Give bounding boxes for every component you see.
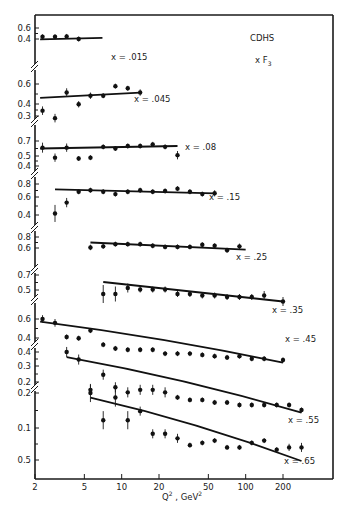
data-point [64,90,68,94]
y-tick-label: 0.4 [17,161,31,171]
data-point [250,295,254,299]
data-point [175,245,179,249]
y-tick-label: 0.4 [17,99,31,109]
data-point [200,353,204,357]
y-tick-label: 0.5 [17,455,31,465]
data-point [200,192,204,196]
data-point [237,244,241,248]
data-point [101,418,105,422]
x-axis-title-unit-sup: 2 [198,490,202,497]
y-tick-label: 0.7 [17,270,31,280]
data-point [88,391,92,395]
data-point [126,390,130,394]
panel-25: 0.80.6x = .25 [17,232,267,262]
structure-function-subscript: 3 [268,60,272,67]
x-axis-title: Q2 , GeV2 [162,490,202,502]
data-point [138,144,142,148]
data-point [101,190,105,194]
data-point [175,436,179,440]
data-point [76,156,80,160]
fit-curve [90,398,301,461]
data-point [138,242,142,246]
data-point [151,348,155,352]
data-point [163,351,167,355]
x-tick-label: 50 [203,482,214,492]
data-point [287,403,291,407]
data-point [200,293,204,297]
panel-label: x = .65 [284,456,315,466]
data-point [76,190,80,194]
panel-label: x = .45 [285,334,316,344]
data-point [281,299,285,303]
xf3-chart: 0.60.4x = .0150.60.40.3x = .0450.70.50.4… [0,0,347,508]
structure-function-label: x F3 [255,55,272,67]
y-tick-label: 0.6 [17,314,31,324]
data-point [212,438,216,442]
data-point [88,155,92,159]
data-point [113,292,117,296]
data-point [126,190,130,194]
y-tick-label: 0.6 [17,243,31,253]
fit-curve [67,357,302,412]
panel-label: x = .045 [134,94,170,104]
data-point [163,390,167,394]
data-point [64,145,68,149]
data-point [275,447,279,451]
data-point [76,37,80,41]
data-point [88,188,92,192]
data-point [163,287,167,291]
data-point [151,388,155,392]
data-point [64,350,68,354]
data-point [200,243,204,247]
data-point [64,200,68,204]
data-point [40,35,44,39]
data-point [281,358,285,362]
data-point [237,295,241,299]
data-point [188,351,192,355]
data-point [113,146,117,150]
x-tick-label: 5 [82,482,87,492]
data-point [151,142,155,146]
panel-15: 0.80.60.4x = .15 [17,179,240,222]
data-point [101,145,105,149]
data-point [188,398,192,402]
panel-015: 0.60.4x = .015 [17,23,147,62]
y-tick-label: 0.4 [17,34,31,44]
data-point [188,190,192,194]
x-tick-label: 20 [154,482,165,492]
data-point [212,354,216,358]
data-point [175,292,179,296]
y-tick-label: 0.6 [17,79,31,89]
y-tick-label: 0.3 [17,361,31,371]
data-point [212,400,216,404]
data-point [138,188,142,192]
data-point [262,357,266,361]
x-tick-label: 100 [238,482,254,492]
data-point [64,34,68,38]
x-tick-label: 200 [275,482,291,492]
data-point [188,245,192,249]
data-point [299,445,303,449]
data-point [88,94,92,98]
fit-curve [40,146,177,149]
data-point [225,248,229,252]
data-point [299,408,303,412]
panel-label: x = .25 [236,252,267,262]
data-point [76,336,80,340]
panel-label: x = .55 [288,415,319,425]
data-point [76,357,80,361]
y-tick-label: 0.1 [17,423,31,433]
data-point [250,441,254,445]
y-tick-label: 0.4 [17,347,31,357]
data-point [113,84,117,88]
fit-curve [103,282,283,302]
y-tick-label: 0.4 [17,333,31,343]
data-point [225,445,229,449]
data-point [138,287,142,291]
x-axis-title-unit: , GeV [173,492,199,502]
data-point [138,409,142,413]
data-point [151,190,155,194]
data-point [126,286,130,290]
y-tick-label: 0.5 [17,285,31,295]
data-point [175,395,179,399]
